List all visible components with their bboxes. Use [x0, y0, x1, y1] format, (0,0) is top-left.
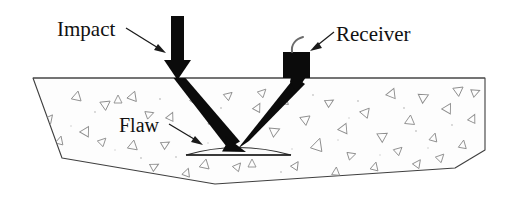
impact-echo-diagram: Impact Receiver Flaw — [0, 0, 518, 206]
receiver-transducer — [283, 52, 310, 78]
receiver-cable — [292, 37, 303, 52]
impact-leader-arrow — [126, 28, 166, 53]
flaw-label: Flaw — [119, 115, 159, 135]
impact-label: Impact — [57, 19, 115, 40]
impact-arrow — [164, 16, 191, 80]
receiver-label: Receiver — [336, 24, 411, 45]
receiver-leader-arrow — [310, 32, 334, 51]
